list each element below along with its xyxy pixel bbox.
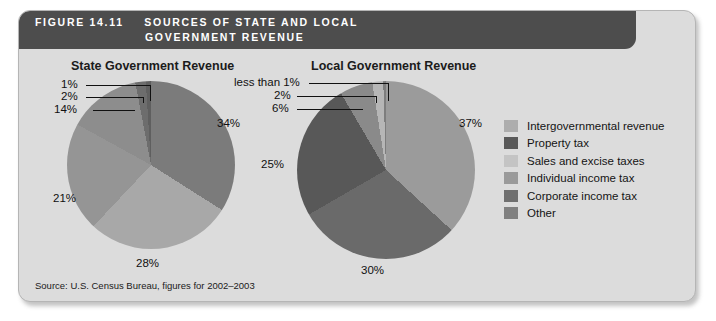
local-leader-lt1-h (309, 83, 389, 84)
chart-body: State Government Revenue 1% 2% 14% 21% 2… (19, 49, 695, 301)
state-label-34pct: 34% (217, 117, 240, 129)
local-label-25pct: 25% (261, 158, 284, 170)
legend-item-corporate-income-tax: Corporate income tax (504, 187, 694, 205)
local-leader-2-h (297, 96, 377, 97)
local-leader-2-v (376, 96, 377, 103)
legend-label: Sales and excise taxes (527, 155, 645, 167)
state-government-revenue-pie (67, 81, 235, 249)
state-label-1pct: 1% (61, 78, 78, 90)
local-leader-lt1-v (388, 83, 389, 101)
state-label-21pct: 21% (53, 192, 76, 204)
legend-item-sales-and-excise-taxes: Sales and excise taxes (504, 152, 694, 170)
legend: Intergovernmental revenue Property tax S… (504, 117, 694, 222)
local-label-30pct: 30% (361, 264, 384, 276)
legend-label: Other (527, 207, 556, 219)
figure-title-line-1: FIGURE 14.11 SOURCES OF STATE AND LOCAL (35, 15, 636, 30)
local-government-revenue-pie (297, 81, 475, 259)
local-label-6pct: 6% (272, 102, 289, 114)
figure-number: FIGURE 14.11 (35, 16, 124, 28)
legend-swatch-icon (504, 207, 518, 219)
legend-item-property-tax: Property tax (504, 135, 694, 153)
state-leader-14-h (93, 110, 135, 111)
legend-item-individual-income-tax: Individual income tax (504, 170, 694, 188)
local-pie-title: Local Government Revenue (311, 59, 476, 73)
local-label-lessthan1pct: less than 1% (234, 76, 300, 88)
state-leader-2-v (143, 97, 144, 103)
state-leader-1-v (150, 85, 151, 101)
state-label-14pct: 14% (54, 103, 77, 115)
state-pie-title: State Government Revenue (71, 59, 234, 73)
figure-frame: FIGURE 14.11 SOURCES OF STATE AND LOCAL … (18, 10, 696, 302)
legend-label: Property tax (527, 137, 589, 149)
legend-swatch-icon (504, 190, 518, 202)
legend-swatch-icon (504, 120, 518, 132)
state-leader-2-h (86, 97, 144, 98)
legend-swatch-icon (504, 155, 518, 167)
local-label-2pct: 2% (274, 89, 291, 101)
legend-label: Corporate income tax (527, 190, 637, 202)
local-label-37pct: 37% (459, 117, 482, 129)
legend-item-other: Other (504, 205, 694, 223)
legend-swatch-icon (504, 137, 518, 149)
legend-item-intergovernmental-revenue: Intergovernmental revenue (504, 117, 694, 135)
legend-swatch-icon (504, 172, 518, 184)
state-label-28pct: 28% (136, 257, 159, 269)
figure-title-text: SOURCES OF STATE AND LOCAL (144, 16, 358, 28)
state-leader-1-h (86, 85, 151, 86)
legend-label: Individual income tax (527, 172, 634, 184)
state-label-2pct: 2% (61, 90, 78, 102)
source-note: Source: U.S. Census Bureau, figures for … (35, 280, 255, 291)
figure-title-line-2: GOVERNMENT REVENUE (35, 30, 636, 45)
local-leader-6-h (297, 109, 363, 110)
legend-label: Intergovernmental revenue (527, 120, 664, 132)
figure-title-banner: FIGURE 14.11 SOURCES OF STATE AND LOCAL … (19, 11, 636, 49)
